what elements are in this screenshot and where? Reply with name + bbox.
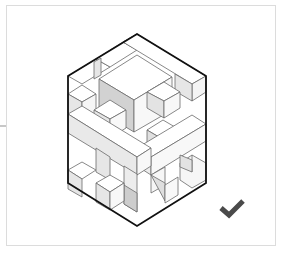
checkmark-icon <box>218 196 246 220</box>
